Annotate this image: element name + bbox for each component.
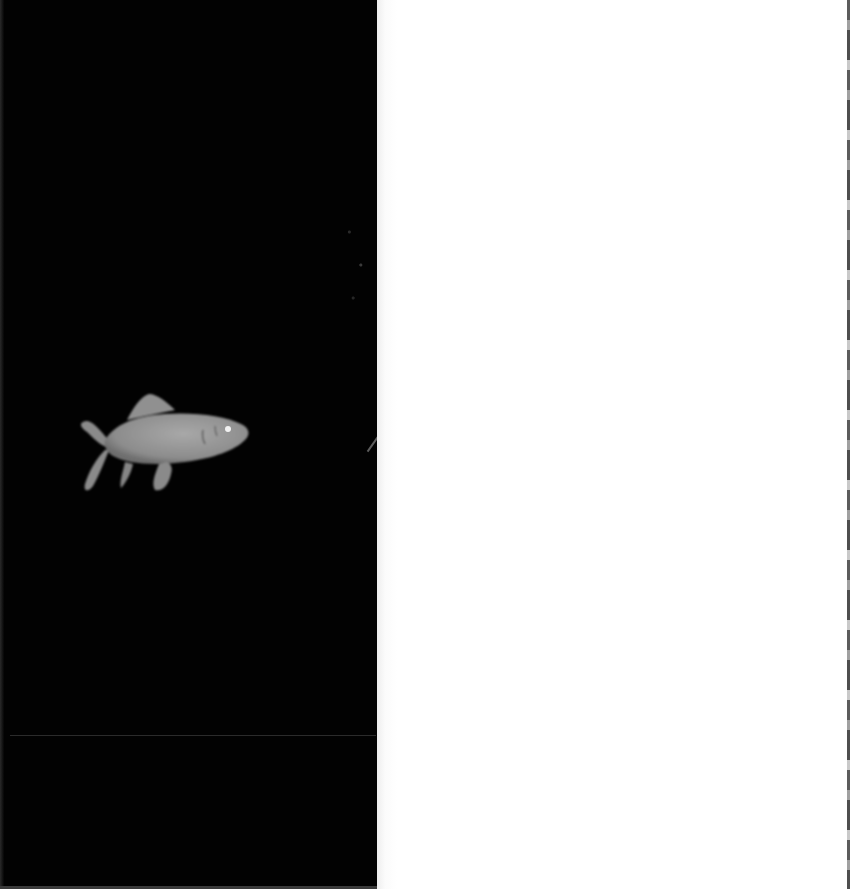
faint-horizontal-line xyxy=(10,735,376,736)
fish-eye xyxy=(225,426,231,432)
speckle-noise xyxy=(338,210,376,320)
fish-image xyxy=(75,388,255,498)
dark-background-panel xyxy=(0,0,377,889)
left-edge-shadow xyxy=(0,0,4,889)
white-background-panel xyxy=(377,0,850,889)
